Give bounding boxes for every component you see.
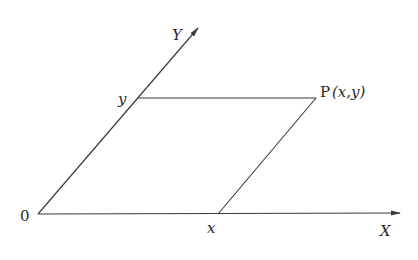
origin-label: 0 xyxy=(20,207,30,225)
point-p-name: P xyxy=(320,83,330,101)
x-coord-label: x xyxy=(207,219,216,237)
point-p-coords: (x,y) xyxy=(332,83,366,101)
x-to-p-line xyxy=(218,98,316,214)
y-coord-label: y xyxy=(117,90,127,108)
y-axis-label: Y xyxy=(172,26,184,44)
oblique-coordinate-diagram: 0 X Y x y P (x,y) xyxy=(0,0,418,260)
x-axis-label: X xyxy=(379,222,392,240)
y-axis xyxy=(38,28,198,214)
